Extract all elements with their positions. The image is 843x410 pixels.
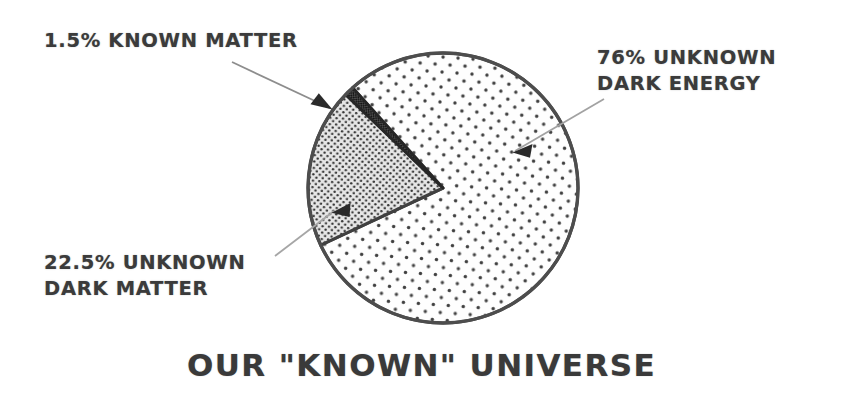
leader-known-matter — [232, 62, 333, 109]
callout-dark-matter-line2: DARK MATTER — [44, 277, 208, 300]
arrowhead-known-matter — [311, 93, 333, 109]
callout-dark-matter-line1: 22.5% UNKNOWN — [44, 251, 246, 274]
callout-dark-energy-line1: 76% UNKNOWN — [597, 46, 776, 69]
callout-dark-energy-line2: DARK ENERGY — [597, 72, 761, 95]
callout-label-dark-matter: 22.5% UNKNOWNDARK MATTER — [44, 250, 246, 302]
universe-pie-figure: 1.5% KNOWN MATTER 76% UNKNOWNDARK ENERGY… — [0, 0, 843, 410]
chart-title: OUR "KNOWN" UNIVERSE — [0, 347, 843, 383]
callout-label-dark-energy: 76% UNKNOWNDARK ENERGY — [597, 45, 776, 97]
callout-label-known-matter: 1.5% KNOWN MATTER — [44, 28, 298, 54]
